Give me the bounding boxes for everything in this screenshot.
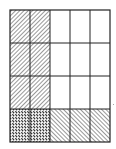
stray-dot (113, 104, 114, 105)
grid-cell-hatch-forward (30, 43, 50, 76)
grid-cell-cross-hatch (30, 109, 50, 142)
grid-cell-empty (50, 10, 70, 43)
grid-cell-empty (90, 10, 110, 43)
grid-cell-cross-hatch (10, 109, 30, 142)
grid-cell-hatch-forward (10, 10, 30, 43)
grid-cell-hatch-forward (30, 76, 50, 109)
grid-cell-empty (90, 76, 110, 109)
grid-cell-hatch-back (70, 109, 90, 142)
fraction-grid-diagram (0, 0, 116, 149)
grid-cell-empty (50, 43, 70, 76)
grid-cell-hatch-back (90, 109, 110, 142)
grid-cell-empty (70, 76, 90, 109)
grid-cell-hatch-forward (10, 76, 30, 109)
grid-cell-hatch-forward (10, 43, 30, 76)
grid-cell-empty (70, 43, 90, 76)
grid-cell-empty (90, 43, 110, 76)
grid-cell-empty (70, 10, 90, 43)
grid-cell-hatch-forward (30, 10, 50, 43)
grid-cell-empty (50, 76, 70, 109)
grid-cell-hatch-back (50, 109, 70, 142)
